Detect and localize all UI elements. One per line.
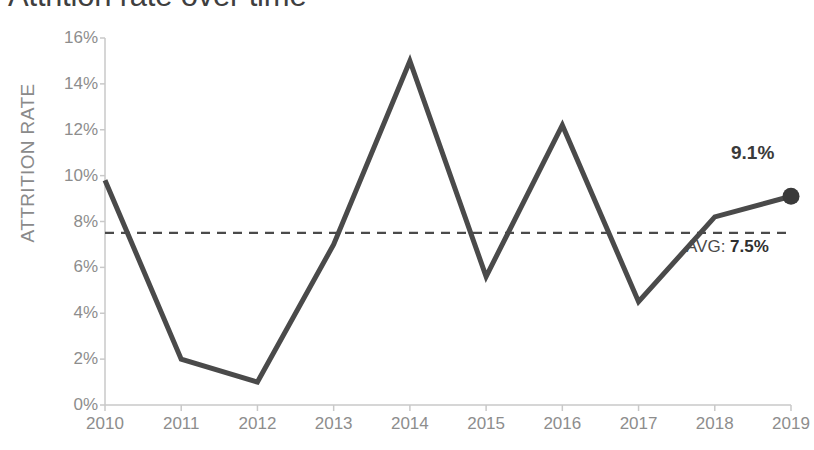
x-tick-marks bbox=[105, 405, 791, 411]
end-point-marker bbox=[783, 188, 800, 205]
data-line-attrition-rate bbox=[105, 61, 791, 382]
axis-lines bbox=[105, 38, 791, 405]
average-line-label: AVG: 7.5% bbox=[686, 237, 769, 257]
average-label-prefix: AVG: bbox=[686, 237, 730, 256]
end-point-value-label: 9.1% bbox=[731, 142, 774, 164]
average-label-value: 7.5% bbox=[730, 237, 769, 256]
